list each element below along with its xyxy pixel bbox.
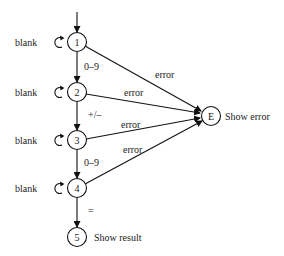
caption-show-error: Show error xyxy=(225,111,270,122)
edge-label-1-E: error xyxy=(155,69,175,80)
node-label: 1 xyxy=(75,37,80,48)
edge-label-3-4: 0–9 xyxy=(84,157,99,168)
self-loop-icon xyxy=(55,36,65,48)
node-4: 4 xyxy=(68,179,87,198)
loop-label-1: blank xyxy=(15,37,37,48)
node-1: 1 xyxy=(68,33,87,52)
loop-label-2: blank xyxy=(15,87,37,98)
node-E: E xyxy=(202,107,221,126)
edge-label-4-5: = xyxy=(88,205,94,216)
edge-label-2-E: error xyxy=(124,87,144,98)
self-loop-icon xyxy=(55,134,65,146)
edge-label-3-E: error xyxy=(121,119,141,130)
edge-1-E xyxy=(85,46,201,111)
state-diagram: 1 2 3 4 5 E blank blank blank blank xyxy=(0,0,284,256)
self-loop-icon xyxy=(55,86,65,98)
caption-show-result: Show result xyxy=(94,232,142,243)
node-label: 5 xyxy=(75,232,80,243)
edge-label-1-2: 0–9 xyxy=(84,61,99,72)
node-label: 2 xyxy=(75,87,80,98)
edge-4-E xyxy=(85,121,202,184)
edge-3-E xyxy=(86,118,200,139)
node-label: 4 xyxy=(75,183,80,194)
loop-label-3: blank xyxy=(15,135,37,146)
node-label: 3 xyxy=(75,135,80,146)
node-2: 2 xyxy=(68,83,87,102)
loop-label-4: blank xyxy=(15,183,37,194)
node-5: 5 xyxy=(68,228,87,247)
node-3: 3 xyxy=(68,131,87,150)
self-loop-icon xyxy=(55,182,65,194)
node-label: E xyxy=(208,111,214,122)
edge-label-2-3: +/– xyxy=(88,109,102,120)
edge-label-4-E: error xyxy=(123,144,143,155)
